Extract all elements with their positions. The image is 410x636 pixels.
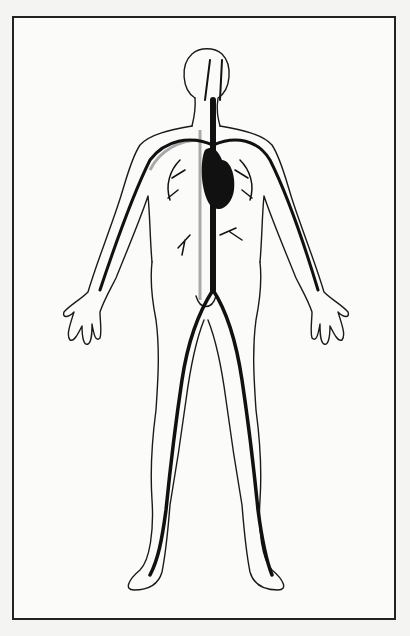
body-outline bbox=[64, 49, 349, 590]
circulatory-system-illustration bbox=[0, 0, 410, 636]
heart bbox=[202, 148, 235, 209]
veins bbox=[150, 130, 200, 300]
arteries bbox=[100, 60, 318, 575]
